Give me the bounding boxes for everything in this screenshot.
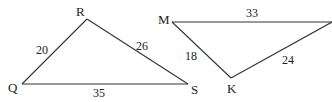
side-kt — [231, 22, 332, 78]
vertex-label-r: R — [76, 4, 85, 19]
side-label-kt: 24 — [282, 53, 294, 67]
vertex-label-q: Q — [8, 80, 18, 95]
vertex-label-k: K — [227, 81, 237, 96]
vertex-label-s: S — [191, 82, 198, 97]
triangles-diagram: R Q S 20 26 35 M K 33 18 24 — [0, 0, 332, 102]
side-mk — [172, 22, 231, 78]
side-label-qs: 35 — [93, 86, 105, 100]
side-label-mk: 18 — [185, 49, 197, 63]
side-qr — [22, 19, 87, 84]
side-label-rs: 26 — [136, 39, 148, 53]
triangle-mk: M K 33 18 24 — [158, 6, 332, 96]
triangle-qrs: R Q S 20 26 35 — [8, 4, 198, 100]
side-label-mt: 33 — [246, 6, 258, 20]
vertex-label-m: M — [158, 12, 170, 27]
side-label-qr: 20 — [36, 43, 48, 57]
